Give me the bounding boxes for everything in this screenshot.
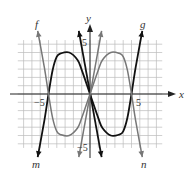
arrowhead-icon	[98, 31, 104, 37]
x-axis-label: x	[178, 88, 184, 100]
tick-label-x-neg5: −5	[34, 97, 45, 108]
y-axis-label: y	[85, 12, 91, 24]
curve-label-f: f	[35, 18, 40, 30]
y-axis-arrow-icon	[87, 24, 93, 32]
tick-label-y-neg5: −5	[77, 142, 88, 153]
graph-plot: x y −5 5 5 −5 f g m n	[0, 0, 193, 172]
tick-label-x-5: 5	[136, 97, 141, 108]
arrowhead-icon	[36, 31, 42, 37]
arrowhead-icon	[138, 151, 144, 157]
tick-label-y-5: 5	[82, 37, 87, 48]
curve-label-n: n	[141, 158, 147, 170]
curve-label-m: m	[32, 158, 40, 170]
curve-label-g: g	[140, 18, 146, 30]
x-axis-arrow-icon	[168, 91, 176, 97]
